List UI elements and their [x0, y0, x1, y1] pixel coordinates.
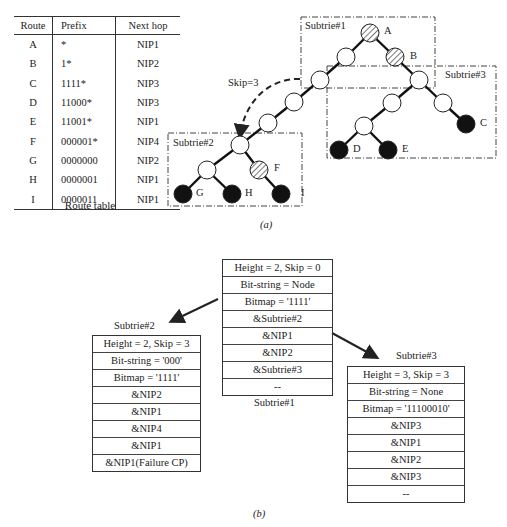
trie-node	[355, 117, 373, 135]
structure-row: --	[348, 485, 464, 502]
node-label-a: A	[384, 25, 392, 36]
node-label-e: E	[402, 143, 408, 154]
arrow-to-subtrie2	[172, 299, 218, 321]
structure-row: Bit-string = Node	[223, 276, 332, 293]
trie-node	[410, 71, 428, 89]
structure-row: Bitmap = '1111'	[93, 369, 200, 386]
structure-row: Bitmap = '1111'	[223, 293, 332, 310]
structure-row: &NIP1	[93, 403, 200, 420]
structure-row: &NIP1	[93, 437, 200, 454]
node-h	[223, 185, 241, 203]
node-i	[272, 185, 290, 203]
node-b	[386, 48, 404, 66]
subtrie2-structure-label: Subtrie#2	[114, 320, 155, 331]
structure-row: &NIP1	[348, 434, 464, 451]
node-e	[379, 141, 397, 159]
node-label-h: H	[245, 187, 253, 198]
caption-a: (a)	[260, 219, 272, 230]
structure-row: &Subtrie#2	[223, 310, 332, 327]
structure-row: Height = 2, Skip = 3	[93, 336, 200, 352]
structure-row: Bit-string = None	[348, 383, 464, 400]
subtrie1-structure-label: Subtrie#1	[254, 397, 295, 408]
structure-row: --	[223, 378, 332, 395]
arrow-to-subtrie3	[332, 333, 376, 357]
trie-node	[434, 94, 452, 112]
structure-row: Bit-string = '000'	[93, 352, 200, 369]
subtrie1-structure: Height = 2, Skip = 0 Bit-string = Node B…	[222, 259, 333, 396]
node-label-i: I	[301, 187, 305, 198]
subtrie2-label: Subtrie#2	[173, 137, 214, 148]
trie-node	[285, 93, 303, 111]
node-c	[457, 115, 475, 133]
subtrie3-label: Subtrie#3	[445, 69, 486, 80]
node-label-d: D	[353, 143, 361, 154]
node-d	[330, 141, 348, 159]
structure-row: &NIP1(Failure CP)	[93, 454, 200, 471]
node-label-g: G	[196, 187, 204, 198]
subtrie2-structure: Height = 2, Skip = 3 Bit-string = '000' …	[92, 335, 201, 472]
node-a	[361, 24, 379, 42]
node-label-f: F	[274, 162, 280, 173]
trie-node	[311, 71, 329, 89]
trie-node	[383, 94, 401, 112]
trie-node	[337, 48, 355, 66]
structure-row: &NIP2	[348, 451, 464, 468]
structure-row: &Subtrie#3	[223, 361, 332, 378]
structure-row: &NIP4	[93, 420, 200, 437]
structure-row: &NIP3	[348, 417, 464, 434]
trie-node	[198, 161, 216, 179]
structure-row: &NIP3	[348, 468, 464, 485]
structure-row: &NIP2	[223, 344, 332, 361]
caption-b: (b)	[253, 508, 265, 519]
subtrie3-structure: Height = 3, Skip = 3 Bit-string = None B…	[347, 366, 465, 503]
structure-row: Bitmap = '11100010'	[348, 400, 464, 417]
structure-row: &NIP1	[223, 327, 332, 344]
skip-label: Skip=3	[228, 77, 258, 88]
node-f	[250, 161, 268, 179]
structure-row: &NIP2	[93, 386, 200, 403]
structure-row: Height = 2, Skip = 0	[223, 260, 332, 276]
node-label-b: B	[410, 50, 417, 61]
structure-row: Height = 3, Skip = 3	[348, 367, 464, 383]
subtrie3-structure-label: Subtrie#3	[396, 350, 437, 361]
node-label-c: C	[480, 117, 487, 128]
trie-node	[259, 114, 277, 132]
subtrie1-label: Subtrie#1	[305, 20, 346, 31]
trie-node	[231, 136, 249, 154]
node-g	[174, 185, 192, 203]
